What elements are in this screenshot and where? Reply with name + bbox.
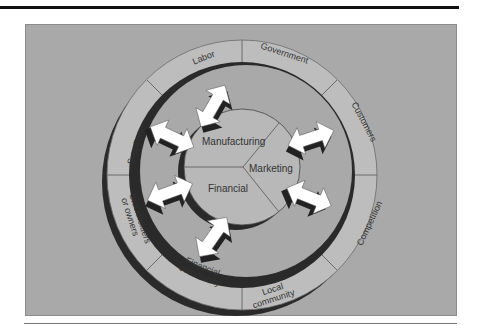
environment-diagram: Labor Government Customers Competition L… <box>0 0 479 336</box>
inner-label-marketing: Marketing <box>249 163 293 174</box>
inner-label-manufacturing: Manufacturing <box>202 136 265 147</box>
inner-label-financial: Financial <box>208 183 248 194</box>
